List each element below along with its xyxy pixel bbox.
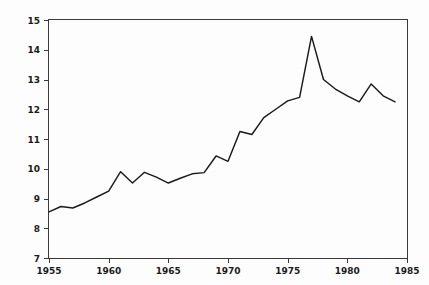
xtick-label-1970: 1970 xyxy=(215,266,240,276)
ytick-label-13: 13 xyxy=(27,75,40,85)
chart-container: 7891011121314151955196019651970197519801… xyxy=(0,0,429,285)
ytick-label-15: 15 xyxy=(27,16,40,26)
line-chart: 7891011121314151955196019651970197519801… xyxy=(0,0,429,285)
xtick-label-1960: 1960 xyxy=(96,266,121,276)
ytick-label-10: 10 xyxy=(27,164,40,174)
xtick-label-1980: 1980 xyxy=(335,266,360,276)
chart-background xyxy=(0,0,429,285)
ytick-label-12: 12 xyxy=(27,105,40,115)
xtick-label-1975: 1975 xyxy=(275,266,300,276)
ytick-label-14: 14 xyxy=(27,45,40,55)
ytick-label-9: 9 xyxy=(34,194,40,204)
ytick-label-11: 11 xyxy=(27,135,40,145)
xtick-label-1955: 1955 xyxy=(36,266,61,276)
ytick-label-8: 8 xyxy=(34,224,40,234)
ytick-label-7: 7 xyxy=(34,254,40,264)
xtick-label-1985: 1985 xyxy=(394,266,419,276)
xtick-label-1965: 1965 xyxy=(156,266,181,276)
